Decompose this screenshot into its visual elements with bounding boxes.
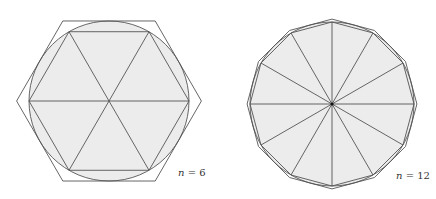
center-dot — [330, 102, 333, 105]
polygon-approximation-figure: n = 6 n = 12 — [0, 0, 436, 199]
panel-dodecagon: n = 12 — [247, 19, 430, 189]
panel-label: n = 6 — [178, 167, 206, 178]
panel-label: n = 12 — [396, 170, 430, 181]
panel-hexagon: n = 6 — [17, 21, 206, 181]
